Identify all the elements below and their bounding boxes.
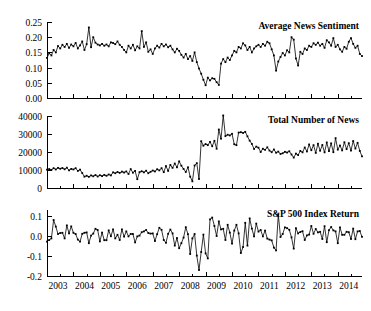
y-tick-label: 0.25 bbox=[25, 18, 42, 28]
y-tick-label: 0.00 bbox=[25, 94, 42, 104]
panel-title: S&P 500 Index Return bbox=[267, 209, 360, 219]
figure-three-panel-timeseries: 0.000.050.100.150.200.25Average News Sen… bbox=[0, 0, 371, 311]
y-tick-label: 0.0 bbox=[30, 232, 42, 242]
y-tick-label: 0.1 bbox=[30, 212, 42, 222]
x-tick-label: 2007 bbox=[154, 281, 173, 291]
plot-area: 0.000.050.100.150.200.25Average News Sen… bbox=[0, 14, 371, 104]
y-tick-label: 0.05 bbox=[25, 79, 42, 89]
x-tick-label: 2010 bbox=[233, 281, 252, 291]
x-tick-label: 2008 bbox=[181, 281, 200, 291]
y-tick-label: 20000 bbox=[18, 148, 42, 158]
y-tick-label: 0.20 bbox=[25, 33, 42, 43]
y-tick-label: 10000 bbox=[18, 166, 42, 176]
panel-sp500-index-return: -0.2-0.10.00.1S&P 500 Index Return200320… bbox=[0, 200, 371, 296]
y-tick-label: 0.10 bbox=[25, 64, 42, 74]
panel-total-number-of-news: 010000200003000040000Total Number of New… bbox=[0, 110, 371, 194]
x-tick-label: 2004 bbox=[75, 281, 94, 291]
panel-average-news-sentiment: 0.000.050.100.150.200.25Average News Sen… bbox=[0, 14, 371, 104]
y-tick-label: -0.2 bbox=[27, 272, 42, 282]
x-tick-label: 2009 bbox=[207, 281, 226, 291]
y-tick-label: 30000 bbox=[18, 130, 42, 140]
y-tick-label: 0 bbox=[37, 184, 42, 194]
x-tick-label: 2011 bbox=[260, 281, 279, 291]
x-tick-label: 2003 bbox=[49, 281, 68, 291]
plot-area: -0.2-0.10.00.1S&P 500 Index Return200320… bbox=[0, 200, 371, 296]
x-tick-label: 2013 bbox=[313, 281, 332, 291]
y-tick-label: 0.15 bbox=[25, 48, 42, 58]
plot-area: 010000200003000040000Total Number of New… bbox=[0, 110, 371, 194]
x-tick-label: 2014 bbox=[339, 281, 358, 291]
y-tick-label: -0.1 bbox=[27, 252, 42, 262]
panel-title: Total Number of News bbox=[268, 115, 359, 125]
y-tick-label: 40000 bbox=[18, 112, 42, 122]
x-tick-label: 2012 bbox=[286, 281, 305, 291]
panel-title: Average News Sentiment bbox=[258, 21, 359, 31]
x-tick-label: 2005 bbox=[101, 281, 120, 291]
x-tick-label: 2006 bbox=[128, 281, 147, 291]
